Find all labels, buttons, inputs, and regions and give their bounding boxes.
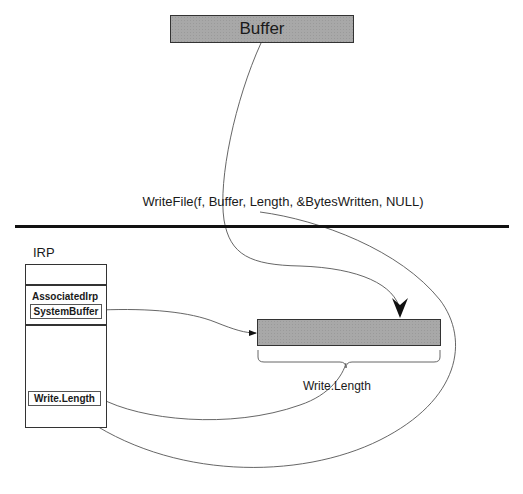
buffer-copy-arrow bbox=[223, 43, 400, 310]
user-buffer-label: Buffer bbox=[239, 19, 284, 39]
length-brace bbox=[258, 350, 440, 368]
associated-irp-label: AssociatedIrp bbox=[32, 291, 98, 302]
write-length-label: Write.Length bbox=[34, 393, 95, 404]
writefile-call-label: WriteFile(f, Buffer, Length, &BytesWritt… bbox=[0, 194, 523, 209]
system-buffer-pointer-arrow bbox=[101, 310, 256, 334]
arrowhead-right-icon bbox=[249, 330, 257, 336]
brace-length-label: Write.Length bbox=[303, 379, 371, 393]
irp-divider-mid bbox=[26, 324, 106, 326]
irp-title: IRP bbox=[33, 245, 55, 260]
irp-structure: AssociatedIrp SystemBuffer Write.Length bbox=[25, 264, 107, 428]
arrowhead-down-icon bbox=[392, 298, 408, 318]
system-buffer-field: SystemBuffer bbox=[30, 304, 102, 319]
user-buffer: Buffer bbox=[170, 15, 354, 43]
irp-divider-top bbox=[26, 284, 106, 286]
system-buffer-label: SystemBuffer bbox=[33, 306, 98, 317]
write-length-field: Write.Length bbox=[28, 391, 101, 406]
system-buffer-region bbox=[257, 319, 441, 346]
user-kernel-divider bbox=[15, 225, 509, 228]
